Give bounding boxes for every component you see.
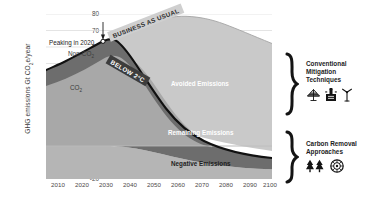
co2-label-text: CO: [70, 84, 80, 91]
nonco2-label: Non-CO2: [68, 50, 94, 59]
chart-figure: GHG emissions Gt CO2e/year 80 70 60 50 4…: [0, 0, 376, 214]
direct-air-capture-icon: [330, 159, 344, 173]
conventional-legend-line3: Techniques: [306, 76, 353, 84]
nonco2-label-text: Non-CO: [68, 50, 91, 57]
conventional-brace: [283, 52, 299, 116]
removal-legend-line2: Approaches: [306, 148, 357, 156]
conventional-mitigation-legend: Conventional Mitigation Techniques: [306, 60, 353, 102]
peaking-arrowhead: [101, 35, 105, 40]
co2-label-subscript: 2: [80, 88, 83, 93]
removal-icon-row: [306, 159, 357, 173]
peaking-annotation: Peaking in 2020: [49, 39, 94, 46]
y-axis-label-text: GHG emissions Gt CO: [24, 65, 31, 134]
conventional-icon-row: [306, 88, 353, 102]
peak-marker: [101, 39, 105, 43]
y-axis-label: GHG emissions Gt CO2e/year: [24, 14, 33, 164]
forest-icon: [306, 159, 326, 173]
removal-legend-line1: Carbon Removal: [306, 140, 357, 148]
conventional-legend-line1: Conventional: [306, 60, 353, 68]
negative-emissions-label: Negative Emissions: [171, 160, 231, 167]
solar-panel-icon: [306, 88, 321, 102]
factory-icon: [325, 88, 337, 102]
y-axis-label-subscript: 2: [29, 62, 34, 65]
y-axis-label-tail: e/year: [24, 44, 31, 63]
carbon-removal-legend: Carbon Removal Approaches: [306, 140, 357, 173]
avoided-emissions-label: Avoided Emissions: [171, 80, 229, 87]
co2-label: CO2: [70, 84, 82, 93]
nonco2-label-subscript: 2: [91, 54, 94, 59]
wind-turbine-icon: [341, 88, 353, 102]
conventional-legend-line2: Mitigation: [306, 68, 353, 76]
x-tick-2100: 2100: [253, 181, 287, 188]
remaining-emissions-label: Remaining Emissions: [168, 129, 233, 136]
carbon-removal-brace: [283, 130, 299, 184]
